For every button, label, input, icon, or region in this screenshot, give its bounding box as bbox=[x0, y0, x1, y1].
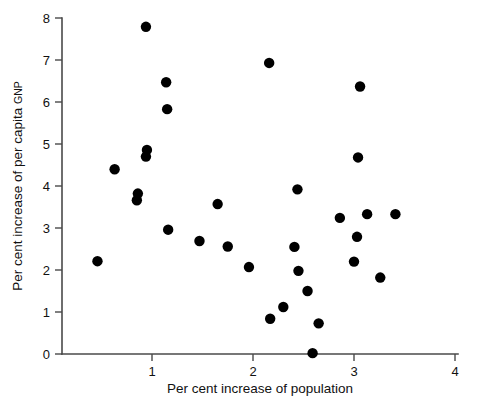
data-point bbox=[278, 302, 288, 312]
y-axis-title-acronym: GNP bbox=[12, 81, 24, 104]
x-axis-title: Per cent increase of population bbox=[167, 381, 353, 396]
data-point bbox=[223, 241, 233, 251]
data-point bbox=[109, 164, 119, 174]
x-tick-label-3: 3 bbox=[350, 364, 357, 379]
data-point bbox=[353, 152, 363, 162]
y-tick-label-4: 4 bbox=[43, 179, 50, 194]
data-point bbox=[293, 266, 303, 276]
ticks-group bbox=[55, 18, 455, 361]
data-point bbox=[212, 199, 222, 209]
data-point bbox=[161, 77, 171, 87]
x-tick-label-4: 4 bbox=[451, 364, 458, 379]
data-point bbox=[194, 236, 204, 246]
y-tick-label-2: 2 bbox=[43, 263, 50, 278]
data-point bbox=[335, 213, 345, 223]
y-axis-title-main: Per cent increase of per capita bbox=[10, 104, 25, 291]
data-points-group bbox=[92, 22, 400, 359]
x-tick-label-1: 1 bbox=[148, 364, 155, 379]
y-tick-label-0: 0 bbox=[43, 347, 50, 362]
data-point bbox=[355, 81, 365, 91]
y-tick-label-5: 5 bbox=[43, 137, 50, 152]
data-point bbox=[163, 224, 173, 234]
data-point bbox=[352, 232, 362, 242]
data-point bbox=[292, 184, 302, 194]
data-point bbox=[349, 256, 359, 266]
data-point bbox=[162, 104, 172, 114]
y-tick-label-6: 6 bbox=[43, 95, 50, 110]
data-point bbox=[141, 151, 151, 161]
axes-group bbox=[62, 18, 458, 354]
data-point bbox=[390, 209, 400, 219]
data-point bbox=[132, 195, 142, 205]
data-point bbox=[302, 286, 312, 296]
data-point bbox=[264, 58, 274, 68]
data-point bbox=[289, 242, 299, 252]
data-point bbox=[265, 314, 275, 324]
scatter-plot-figure: 1234012345678 Per cent increase of popul… bbox=[0, 0, 478, 407]
tick-labels-group: 1234012345678 bbox=[43, 11, 459, 380]
data-point bbox=[375, 272, 385, 282]
x-tick-label-2: 2 bbox=[249, 364, 256, 379]
data-point bbox=[307, 348, 317, 358]
data-point bbox=[141, 22, 151, 32]
data-point bbox=[313, 318, 323, 328]
y-tick-label-1: 1 bbox=[43, 305, 50, 320]
y-tick-label-7: 7 bbox=[43, 53, 50, 68]
data-point bbox=[244, 262, 254, 272]
y-axis-title: Per cent increase of per capita GNP bbox=[10, 81, 25, 291]
data-point bbox=[362, 209, 372, 219]
y-tick-label-8: 8 bbox=[43, 11, 50, 26]
data-point bbox=[92, 256, 102, 266]
y-tick-label-3: 3 bbox=[43, 221, 50, 236]
plot-canvas: 1234012345678 Per cent increase of popul… bbox=[0, 0, 478, 407]
